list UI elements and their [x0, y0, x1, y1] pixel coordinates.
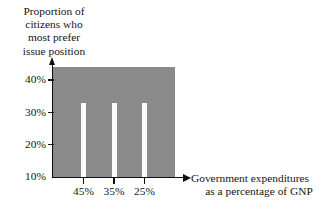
- y-axis-title: Proportion of citizens who most prefer i…: [6, 5, 102, 58]
- plot-area: [53, 67, 175, 177]
- y-axis-title-line-3: most prefer: [6, 31, 102, 44]
- bar: [81, 103, 86, 177]
- x-axis-arrow-icon: [183, 174, 191, 182]
- y-axis-tick-label: 20%: [25, 139, 46, 150]
- x-axis-tick: [113, 178, 114, 184]
- x-axis-tick: [83, 178, 84, 184]
- bar: [142, 103, 147, 177]
- y-axis-title-line-4: issue position: [6, 45, 102, 58]
- y-axis-arrow-icon: [49, 57, 55, 65]
- x-axis-title-line-1: Government expenditures: [191, 172, 327, 185]
- y-axis-tick: [48, 144, 54, 145]
- y-axis-title-line-2: citizens who: [6, 18, 102, 31]
- x-axis-tick: [144, 178, 145, 184]
- y-axis-tick-label: 30%: [25, 107, 46, 118]
- y-axis-line: [52, 64, 53, 178]
- bar: [112, 103, 117, 177]
- x-axis-title-line-2: as a percentage of GNP: [191, 185, 327, 198]
- x-axis-tick-label: 25%: [125, 186, 165, 197]
- y-axis-title-line-1: Proportion of: [6, 5, 102, 18]
- y-axis-tick: [48, 79, 54, 80]
- y-axis-tick: [48, 112, 54, 113]
- y-axis-tick-label: 40%: [25, 74, 46, 85]
- x-axis-title: Government expenditures as a percentage …: [191, 172, 327, 198]
- x-axis-line: [52, 177, 184, 178]
- y-axis-tick-label: 10%: [25, 171, 46, 182]
